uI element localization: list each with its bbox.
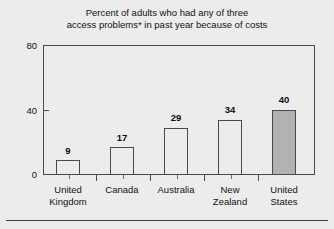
bar-canada (110, 147, 134, 175)
x-label-united-states: United States (245, 184, 323, 208)
x-tick-major-1 (96, 175, 97, 181)
x-tick-minor-2 (123, 175, 124, 179)
x-tick-minor-3 (177, 175, 178, 179)
chart-title-line-2: access problems* in past year because of… (0, 19, 334, 31)
x-tick-major-2 (150, 175, 151, 181)
bars-group: 9 17 29 34 40 (43, 45, 315, 175)
y-tick-label-80: 80 (11, 40, 37, 51)
bar-value-united-kingdom: 9 (46, 145, 90, 156)
bar-united-kingdom (56, 160, 80, 175)
y-tick-label-0: 0 (11, 169, 37, 180)
chart-title: Percent of adults who had any of three a… (0, 7, 334, 31)
x-tick-minor-1 (69, 175, 70, 179)
bar-value-united-states: 40 (262, 94, 306, 105)
bar-value-australia: 29 (154, 112, 198, 123)
bar-chart-figure: Percent of adults who had any of three a… (0, 0, 334, 229)
x-label-united-states-line-2: States (245, 196, 323, 208)
bar-value-new-zealand: 34 (208, 104, 252, 115)
x-label-united-states-line-1: United (245, 184, 323, 196)
bottom-divider (6, 220, 328, 221)
chart-title-line-1: Percent of adults who had any of three (0, 7, 334, 19)
bar-united-states (272, 110, 296, 175)
bar-value-canada: 17 (100, 132, 144, 143)
x-tick-minor-4 (231, 175, 232, 179)
y-tick-label-40: 40 (11, 105, 37, 116)
bar-australia (164, 128, 188, 175)
x-label-united-kingdom-line-2: Kingdom (29, 196, 107, 208)
x-tick-major-3 (204, 175, 205, 181)
x-tick-major-4 (258, 175, 259, 181)
bar-new-zealand (218, 120, 242, 175)
